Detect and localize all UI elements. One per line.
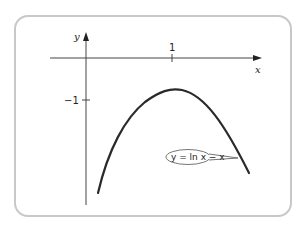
callout-label: y = ln x − x xyxy=(171,152,225,162)
x-tick-label-1: 1 xyxy=(169,42,175,53)
x-axis-arrow-icon xyxy=(253,55,262,61)
y-axis-label: y xyxy=(73,31,80,42)
curve-ln-x-minus-x xyxy=(98,89,249,193)
chart-plot: 1 −1 y x y = ln x − x xyxy=(0,0,308,229)
x-axis-label: x xyxy=(255,64,261,75)
y-tick-label-neg1: −1 xyxy=(64,95,79,106)
y-axis-arrow-icon xyxy=(83,32,89,41)
